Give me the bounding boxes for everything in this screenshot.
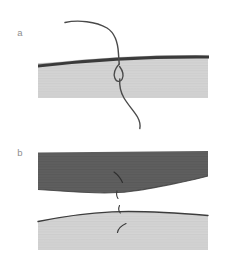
- figure-container: a b: [0, 0, 235, 265]
- panel-b-thread-fragment-interface: [119, 206, 121, 214]
- panel-a: a: [17, 21, 209, 128]
- panel-b: b: [17, 147, 208, 250]
- panel-a-suture-thread-upper: [65, 21, 119, 64]
- panel-b-label: b: [17, 147, 22, 158]
- figure-canvas: a b: [0, 0, 235, 265]
- panel-a-label: a: [17, 27, 23, 38]
- panel-b-dark-block: [38, 151, 208, 193]
